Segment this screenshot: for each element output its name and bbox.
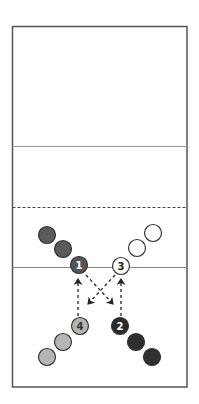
player-marker: [145, 225, 162, 242]
player-marker: [39, 227, 56, 244]
arrow-3-to-4: [88, 275, 115, 304]
player-p2c: [144, 349, 161, 366]
player-p1: 1: [71, 257, 88, 274]
arrow-1-to-2: [86, 275, 113, 304]
players: 1342: [39, 225, 162, 366]
player-p3b: [129, 240, 146, 257]
player-p4b: [55, 334, 72, 351]
player-number: 2: [117, 321, 124, 332]
player-marker: [55, 241, 72, 258]
player-marker: [129, 240, 146, 257]
volleyball-court-diagram: 1342: [0, 0, 199, 404]
player-number: 3: [118, 261, 125, 272]
player-marker: [39, 349, 56, 366]
player-p1c: [39, 227, 56, 244]
player-p4c: [39, 349, 56, 366]
player-number: 1: [76, 260, 83, 271]
player-marker: [144, 349, 161, 366]
player-p2: 2: [112, 318, 129, 335]
player-p3: 3: [113, 258, 130, 275]
movement-arrows: [78, 275, 121, 316]
player-p1b: [55, 241, 72, 258]
court-boundary: [13, 27, 188, 388]
player-p2b: [128, 334, 145, 351]
player-p3c: [145, 225, 162, 242]
player-marker: [128, 334, 145, 351]
player-marker: [55, 334, 72, 351]
court-lines: [13, 147, 188, 268]
player-number: 4: [77, 321, 84, 332]
player-p4: 4: [72, 318, 89, 335]
